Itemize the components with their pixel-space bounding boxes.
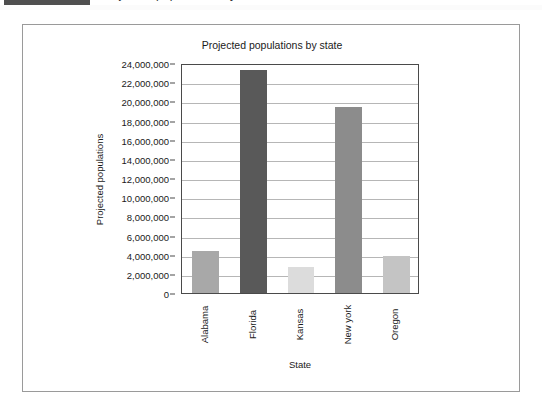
x-axis-tick-labels: AlabamaFloridaKansasNew yorkOregon (181, 297, 419, 355)
bar-florida (240, 70, 267, 293)
chart-figure-frame: Projected populations by state 24,000,00… (22, 24, 520, 392)
y-tick-mark (170, 83, 175, 84)
y-tick-mark (170, 140, 175, 141)
x-tick-label: Kansas (276, 297, 324, 355)
y-tick-mark (170, 274, 175, 275)
clipped-top-strip: Projected populations by state (0, 0, 542, 10)
x-tick-label: Alabama (181, 297, 229, 355)
y-tick-label: 10,000,000 (121, 193, 169, 204)
y-tick-label: 14,000,000 (121, 154, 169, 165)
y-tick-label: 2,000,000 (127, 269, 169, 280)
y-tick-mark (170, 102, 175, 103)
x-tick-label: Oregon (371, 297, 419, 355)
chart-title: Projected populations by state (23, 39, 521, 51)
gridline (182, 161, 418, 162)
y-tick-mark (170, 121, 175, 122)
x-tick-label: New york (324, 297, 372, 355)
y-tick-label: 8,000,000 (127, 212, 169, 223)
gridline (182, 84, 418, 85)
y-tick-mark (170, 217, 175, 218)
y-tick-label: 0 (164, 289, 169, 300)
y-axis-tick-labels: 24,000,00022,000,00020,000,00018,000,000… (61, 64, 175, 294)
gridline (182, 180, 418, 181)
y-tick-mark (170, 159, 175, 160)
y-tick-label: 20,000,000 (121, 97, 169, 108)
y-tick-label: 4,000,000 (127, 250, 169, 261)
y-tick-label: 6,000,000 (127, 231, 169, 242)
gridline (182, 103, 418, 104)
gridline (182, 199, 418, 200)
y-axis-title: Projected populations (93, 64, 107, 294)
x-tick-label-text: Oregon (390, 309, 401, 341)
y-tick-label: 22,000,000 (121, 78, 169, 89)
y-tick-mark (170, 294, 175, 295)
gridline (182, 218, 418, 219)
page-background-wash (0, 5, 542, 10)
gridline (182, 142, 418, 143)
bar-new-york (335, 107, 362, 293)
bar-alabama (192, 251, 219, 293)
gridline (182, 123, 418, 124)
x-tick-label-text: Kansas (294, 309, 305, 341)
y-tick-label: 12,000,000 (121, 174, 169, 185)
y-tick-label: 16,000,000 (121, 135, 169, 146)
plot-area (181, 64, 419, 294)
bar-oregon (383, 256, 410, 293)
y-tick-label: 24,000,000 (121, 59, 169, 70)
x-axis-title: State (181, 359, 419, 370)
y-axis-title-text: Projected populations (95, 133, 106, 224)
gridline (182, 238, 418, 239)
x-tick-label: Florida (229, 297, 277, 355)
x-tick-label-text: Alabama (199, 306, 210, 344)
x-tick-label-text: New york (342, 305, 353, 345)
bar-kansas (288, 267, 315, 293)
clipped-title-text: Projected populations by state (100, 0, 267, 1)
y-tick-mark (170, 64, 175, 65)
y-tick-label: 18,000,000 (121, 116, 169, 127)
y-tick-mark (170, 198, 175, 199)
y-tick-mark (170, 236, 175, 237)
y-tick-mark (170, 179, 175, 180)
y-tick-mark (170, 255, 175, 256)
x-tick-label-text: Florida (247, 310, 258, 339)
